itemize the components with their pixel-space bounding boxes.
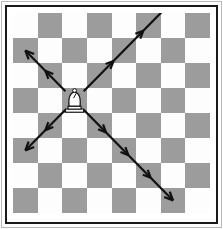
board-square: [87, 88, 112, 113]
board-square: [38, 163, 63, 188]
board-square: [185, 88, 210, 113]
chessboard-grid: [13, 13, 210, 213]
board-square: [161, 113, 186, 138]
board-square: [185, 63, 210, 88]
board-square: [161, 38, 186, 63]
board-square: [112, 63, 137, 88]
board-square: [13, 188, 38, 213]
board-square: [38, 63, 63, 88]
board-square: [136, 38, 161, 63]
board-square: [13, 88, 38, 113]
board-square: [62, 63, 87, 88]
board-square: [136, 163, 161, 188]
board-square: [185, 188, 210, 213]
board-square: [62, 38, 87, 63]
board-square: [62, 188, 87, 213]
board-square: [13, 138, 38, 163]
board-square: [112, 163, 137, 188]
board-square: [112, 113, 137, 138]
board-square: [38, 38, 63, 63]
board-square: [161, 88, 186, 113]
board-square: [13, 13, 38, 38]
board-square: [38, 88, 63, 113]
board-square: [38, 13, 63, 38]
board-square: [13, 163, 38, 188]
board-square: [136, 88, 161, 113]
board-square: [38, 113, 63, 138]
board-square: [62, 113, 87, 138]
board-square: [161, 188, 186, 213]
board-square: [136, 63, 161, 88]
board-square: [185, 138, 210, 163]
board-square: [112, 13, 137, 38]
board-square: [87, 113, 112, 138]
board-square: [38, 138, 63, 163]
board-square: [161, 63, 186, 88]
board-square: [136, 138, 161, 163]
board-square: [185, 13, 210, 38]
board-square: [87, 63, 112, 88]
board-square: [161, 163, 186, 188]
board-square: [38, 188, 63, 213]
board-square: [136, 13, 161, 38]
board-square: [87, 13, 112, 38]
board-square: [185, 163, 210, 188]
board-square: [13, 113, 38, 138]
board-square: [161, 13, 186, 38]
chessboard: [13, 13, 210, 213]
board-square: [112, 38, 137, 63]
board-square: [136, 188, 161, 213]
board-square: [185, 38, 210, 63]
board-square: [161, 138, 186, 163]
board-square: [62, 88, 87, 113]
board-square: [112, 88, 137, 113]
board-square: [185, 113, 210, 138]
board-square: [13, 63, 38, 88]
board-square: [136, 113, 161, 138]
board-square: [13, 38, 38, 63]
board-square: [62, 138, 87, 163]
board-square: [87, 163, 112, 188]
board-square: [87, 138, 112, 163]
board-square: [87, 188, 112, 213]
board-square: [87, 38, 112, 63]
board-square: [112, 138, 137, 163]
board-square: [62, 13, 87, 38]
board-square: [112, 188, 137, 213]
board-square: [62, 163, 87, 188]
chess-diagram-figure: Bishop movement diagram: [0, 0, 223, 229]
